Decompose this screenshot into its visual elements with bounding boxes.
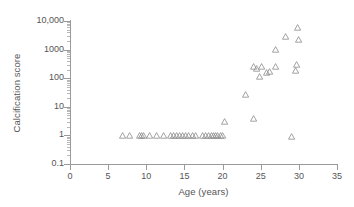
y-tick-label: 10,000 xyxy=(4,16,64,25)
y-tick-minor xyxy=(67,140,70,141)
y-tick-label: 10 xyxy=(4,102,64,111)
x-tick-label: 5 xyxy=(93,172,123,181)
y-tick-minor xyxy=(67,115,70,116)
x-tick-major xyxy=(108,165,109,170)
y-axis-line xyxy=(70,20,71,165)
y-tick-label: 1 xyxy=(4,130,64,139)
y-tick-minor xyxy=(67,111,70,112)
y-tick-label: 100 xyxy=(4,73,64,82)
y-tick-minor xyxy=(67,155,70,156)
x-tick-major xyxy=(337,165,338,170)
y-tick-minor xyxy=(67,142,70,143)
y-tick-minor xyxy=(67,24,70,25)
y-tick-minor xyxy=(67,98,70,99)
x-tick-major xyxy=(184,165,185,170)
x-tick-label: 30 xyxy=(284,172,314,181)
y-tick-minor xyxy=(67,22,70,23)
y-tick-minor xyxy=(67,32,70,33)
x-tick-major xyxy=(146,165,147,170)
x-tick-label: 15 xyxy=(169,172,199,181)
y-tick-minor xyxy=(67,90,70,91)
x-tick-label: 0 xyxy=(55,172,85,181)
y-axis-title: Calcification score xyxy=(10,13,24,173)
y-tick-minor xyxy=(67,87,70,88)
y-tick-minor xyxy=(67,144,70,145)
y-tick-minor xyxy=(67,51,70,52)
y-tick-label: 1000 xyxy=(4,45,64,54)
y-tick-minor xyxy=(67,80,70,81)
y-tick-minor xyxy=(67,108,70,109)
y-tick-minor xyxy=(67,36,70,37)
y-tick-minor xyxy=(67,85,70,86)
y-tick-minor xyxy=(67,81,70,82)
calcification-score-scatter-chart: Calcification score Age (years) 0.111010… xyxy=(0,0,354,207)
y-tick-minor xyxy=(67,127,70,128)
y-tick-minor xyxy=(67,138,70,139)
y-tick-minor xyxy=(67,122,70,123)
x-tick-label: 10 xyxy=(131,172,161,181)
y-tick-minor xyxy=(67,56,70,57)
y-tick-minor xyxy=(67,54,70,55)
y-tick-label: 0.1 xyxy=(4,159,64,168)
x-tick-major xyxy=(299,165,300,170)
x-axis-title: Age (years) xyxy=(70,186,337,197)
y-tick-minor xyxy=(67,61,70,62)
x-tick-major xyxy=(261,165,262,170)
y-tick-minor xyxy=(67,83,70,84)
y-tick-minor xyxy=(67,150,70,151)
y-tick-minor xyxy=(67,110,70,111)
x-tick-major xyxy=(70,165,71,170)
y-tick-minor xyxy=(67,147,70,148)
x-tick-label: 35 xyxy=(322,172,352,181)
y-tick-minor xyxy=(67,52,70,53)
y-tick-minor xyxy=(67,118,70,119)
y-tick-minor xyxy=(67,30,70,31)
y-tick-minor xyxy=(67,93,70,94)
x-tick-label: 25 xyxy=(246,172,276,181)
y-tick-minor xyxy=(67,25,70,26)
y-tick-minor xyxy=(67,70,70,71)
x-tick-major xyxy=(223,165,224,170)
y-tick-minor xyxy=(67,27,70,28)
y-tick-minor xyxy=(67,137,70,138)
y-tick-minor xyxy=(67,65,70,66)
y-tick-minor xyxy=(67,113,70,114)
x-tick-label: 20 xyxy=(208,172,238,181)
y-tick-minor xyxy=(67,58,70,59)
y-tick-minor xyxy=(67,41,70,42)
x-axis-line xyxy=(70,164,338,165)
